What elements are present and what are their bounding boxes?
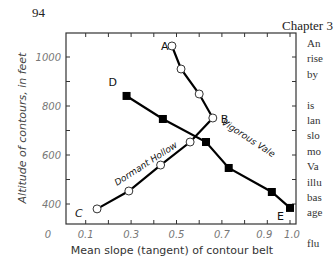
circle-marker — [157, 161, 165, 169]
circle-marker — [177, 65, 185, 73]
label-e: E — [277, 210, 284, 223]
square-marker — [268, 188, 276, 196]
circle-marker — [186, 138, 194, 146]
label-c: C — [75, 207, 83, 220]
x-tick-label: 0.5 — [169, 229, 185, 240]
y-tick-label: 600 — [42, 150, 61, 161]
x-tick-label: 1.0 — [284, 229, 300, 240]
slope-altitude-chart: 00.10.30.50.70.91.0 4006008001000 ABCDED… — [0, 0, 336, 262]
y-tick-label: 400 — [42, 199, 61, 210]
x-tick-label: 0.3 — [123, 229, 139, 240]
label-a: A — [161, 40, 169, 53]
circle-marker — [195, 90, 203, 98]
series-line — [97, 46, 213, 209]
label-dormant-hollow: Dormant Hollow — [113, 139, 180, 187]
square-marker — [159, 115, 167, 123]
y-axis-title: Altitude of contours, in feet — [16, 52, 29, 205]
circle-marker — [125, 187, 133, 195]
circle-marker — [93, 205, 101, 213]
square-marker — [202, 138, 210, 146]
x-tick-label: 0.9 — [256, 229, 272, 240]
y-axis-ticks: 4006008001000 — [36, 52, 296, 210]
x-tick-label: 0 — [45, 229, 51, 240]
x-tick-label: 0.1 — [78, 229, 94, 240]
y-tick-label: 800 — [42, 101, 61, 112]
square-marker — [225, 164, 233, 172]
x-tick-label: 0.7 — [214, 229, 231, 240]
data-series — [93, 42, 294, 213]
circle-marker — [168, 42, 176, 50]
x-axis-title: Mean slope (tangent) of contour belt — [71, 244, 274, 257]
label-vigorous-vale: Vigorous Vale — [220, 117, 277, 159]
x-axis-ticks: 00.10.30.50.70.91.0 — [45, 33, 300, 240]
square-marker — [286, 204, 294, 212]
circle-marker — [209, 114, 217, 122]
label-d: D — [109, 76, 117, 89]
square-marker — [123, 92, 131, 100]
y-tick-label: 1000 — [36, 52, 61, 63]
